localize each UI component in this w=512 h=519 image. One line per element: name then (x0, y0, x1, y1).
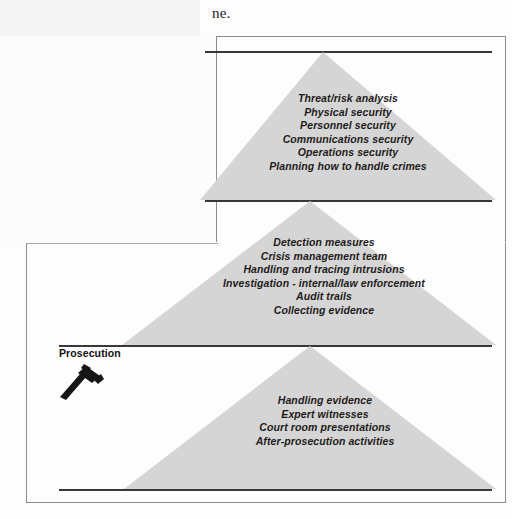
tier-1-line: Threat/risk analysis (200, 92, 496, 106)
pyramid-tier-3: Handling evidence Expert witnesses Court… (124, 346, 496, 490)
scan-smudge (0, 0, 200, 36)
tier-1-line: Operations security (200, 146, 496, 160)
tier-1-line: Physical security (200, 106, 496, 120)
pyramid-tier-1-text: Threat/risk analysis Physical security P… (200, 92, 496, 174)
tier-2-line: Investigation - internal/law enforcement (152, 277, 496, 291)
tier-1-line: Personnel security (200, 119, 496, 133)
pyramid-tier-2: Detection measures Crisis management tea… (122, 201, 496, 346)
tier-2-line: Detection measures (152, 236, 496, 250)
tier-2-line: Audit trails (152, 290, 496, 304)
tier-3-line: After-prosecution activities (154, 435, 496, 449)
tier-3-line: Court room presentations (154, 421, 496, 435)
tier-3-line: Expert witnesses (154, 408, 496, 422)
tier-1-line: Planning how to handle crimes (200, 160, 496, 174)
tier-2-line: Collecting evidence (152, 304, 496, 318)
prosecution-label: Prosecution (59, 347, 121, 359)
tier-2-line: Crisis management team (152, 250, 496, 264)
page-text-fragment: ne. (212, 5, 231, 22)
pyramid-tier-2-text: Detection measures Crisis management tea… (152, 236, 496, 318)
pyramid-tier-1: Threat/risk analysis Physical security P… (200, 52, 496, 201)
tier-2-line: Handling and tracing intrusions (152, 263, 496, 277)
tier-1-line: Communications security (200, 133, 496, 147)
pyramid-tier-3-text: Handling evidence Expert witnesses Court… (154, 394, 496, 448)
gavel-icon (58, 364, 106, 400)
tier-3-line: Handling evidence (154, 394, 496, 408)
